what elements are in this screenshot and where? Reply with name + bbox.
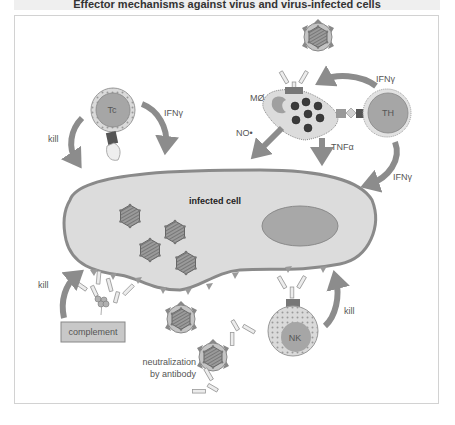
neutralization-label-line2: by antibody: [150, 369, 197, 379]
ifn-label-th-to-macrophage: IFNγ: [376, 74, 395, 84]
infected-cell: [64, 170, 376, 295]
nk-label: NK: [289, 333, 302, 343]
kill-label-tc: kill: [48, 134, 59, 144]
enveloped-virus: [302, 19, 334, 51]
complement-label: complement: [68, 327, 118, 337]
kill-arrow-complement: [63, 276, 76, 318]
tc-label: Tc: [108, 105, 118, 115]
mhc-molecule: [336, 109, 346, 118]
infected-cell-label: infected cell: [189, 196, 241, 206]
peptide-antigen: [346, 108, 356, 118]
antibody: [277, 276, 306, 298]
ifn-label-th-to-cell: IFNγ: [393, 172, 412, 182]
tnf-label: TNFα: [331, 142, 354, 152]
complement-complex: [95, 296, 109, 315]
neutralizing-antibody: [220, 313, 256, 347]
tc-cell: [91, 88, 135, 160]
enveloped-virus: [197, 339, 229, 371]
kill-arrow-tc: [71, 118, 82, 160]
nucleus: [262, 206, 338, 246]
kill-label-complement: kill: [38, 280, 49, 290]
no-arrow: [258, 128, 282, 152]
ifn-label-tc: IFNγ: [164, 108, 183, 118]
neutralization-label-line1: neutralization: [142, 357, 196, 367]
th-label: TH: [382, 108, 394, 118]
diagram-canvas: infected cell Tc kill IFNγ MØ TH: [0, 0, 455, 425]
no-label: NO•: [236, 128, 253, 138]
ifn-arrow-th-to-macrophage: [324, 76, 376, 86]
kill-label-nk: kill: [344, 306, 355, 316]
macrophage-label: MØ: [250, 93, 265, 103]
ifn-arrow-tc: [142, 104, 166, 145]
nk-cell: [268, 276, 318, 356]
kill-arrow-nk: [325, 280, 338, 326]
enveloped-virus: [165, 301, 197, 333]
